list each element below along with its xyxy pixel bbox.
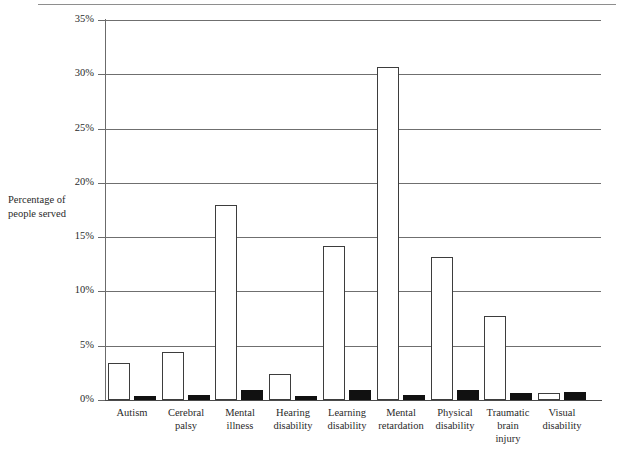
y-axis-tick-label: 20%: [75, 176, 94, 187]
gridline: [105, 20, 601, 21]
bar-black: [241, 390, 263, 400]
gridline: [105, 183, 601, 184]
y-axis-title-line: people served: [8, 207, 100, 221]
y-axis-tick-label: 15%: [75, 230, 94, 241]
bar-black: [134, 396, 156, 400]
bar-white: [377, 67, 399, 400]
bar-white: [431, 257, 453, 400]
y-axis-tick: [98, 291, 105, 292]
bar-white: [162, 352, 184, 400]
y-axis-tick-label: 10%: [75, 284, 94, 295]
bar-white: [108, 363, 130, 400]
category-label-line: disability: [529, 419, 595, 432]
gridline: [105, 129, 601, 130]
x-axis-category-label: Visualdisability: [529, 406, 595, 432]
bar-white: [538, 393, 560, 400]
bar-white: [484, 316, 506, 400]
gridline: [105, 74, 601, 75]
category-label-line: Visual: [529, 406, 595, 419]
gridline: [105, 237, 601, 238]
gridline: [105, 291, 601, 292]
y-axis-tick: [98, 237, 105, 238]
chart-figure: 0%5%10%15%20%25%30%35%AutismCerebralpals…: [0, 0, 618, 451]
x-axis-line: [105, 400, 602, 401]
y-axis-tick: [98, 183, 105, 184]
y-axis-line: [105, 19, 106, 401]
plot-area: 0%5%10%15%20%25%30%35%AutismCerebralpals…: [0, 0, 618, 451]
y-axis-tick-label: 35%: [75, 13, 94, 24]
y-axis-title: Percentage ofpeople served: [8, 193, 100, 220]
y-axis-tick: [98, 400, 105, 401]
bar-white: [269, 374, 291, 400]
y-axis-tick-label: 5%: [80, 339, 94, 350]
bar-black: [349, 390, 371, 400]
bar-black: [457, 390, 479, 400]
y-axis-tick: [98, 74, 105, 75]
category-label-line: injury: [475, 432, 541, 445]
y-axis-tick-label: 25%: [75, 122, 94, 133]
bar-white: [323, 246, 345, 400]
bar-black: [403, 395, 425, 400]
y-axis-tick: [98, 129, 105, 130]
y-axis-tick: [98, 346, 105, 347]
bar-black: [564, 392, 586, 400]
y-axis-tick-label: 30%: [75, 67, 94, 78]
bar-black: [295, 396, 317, 400]
gridline: [105, 346, 601, 347]
y-axis-tick: [98, 20, 105, 21]
y-axis-tick-label: 0%: [80, 393, 94, 404]
bar-black: [188, 395, 210, 400]
y-axis-title-line: Percentage of: [8, 193, 100, 207]
bar-white: [215, 205, 237, 400]
bar-black: [510, 393, 532, 400]
